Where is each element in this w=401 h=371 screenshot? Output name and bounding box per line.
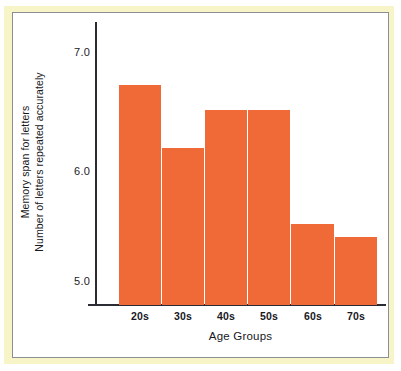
y-tick-label-1: 6.0 <box>54 166 90 177</box>
bar-60s <box>291 224 334 305</box>
plot-area: 7.0 6.0 5.0 20s 30s 40s 50s 60s 70s Memo… <box>0 0 401 371</box>
y-axis-ticks: 7.0 6.0 5.0 <box>52 0 90 306</box>
y-tick-label-0: 7.0 <box>54 47 90 58</box>
x-axis-title: Age Groups <box>95 330 386 342</box>
y-axis-title-line-2: Number of letters repeated accurately <box>32 62 46 262</box>
x-tick-label-40s: 40s <box>204 310 248 322</box>
x-tick-label-50s: 50s <box>247 310 291 322</box>
bar-40s <box>205 110 247 305</box>
y-axis-line <box>95 22 97 306</box>
x-tick-label-20s: 20s <box>118 310 162 322</box>
bar-50s <box>248 110 290 305</box>
x-tick-label-70s: 70s <box>334 310 378 322</box>
bar-30s <box>162 148 204 305</box>
x-tick-label-60s: 60s <box>291 310 335 322</box>
y-axis-title-line-1: Memory span for letters <box>18 62 32 262</box>
y-tick-label-2: 5.0 <box>54 276 90 287</box>
bar-20s <box>119 85 161 305</box>
bar-70s <box>335 237 377 305</box>
chart-figure: 7.0 6.0 5.0 20s 30s 40s 50s 60s 70s Memo… <box>0 0 401 371</box>
x-tick-label-30s: 30s <box>161 310 205 322</box>
y-axis-title: Memory span for letters Number of letter… <box>18 62 46 262</box>
